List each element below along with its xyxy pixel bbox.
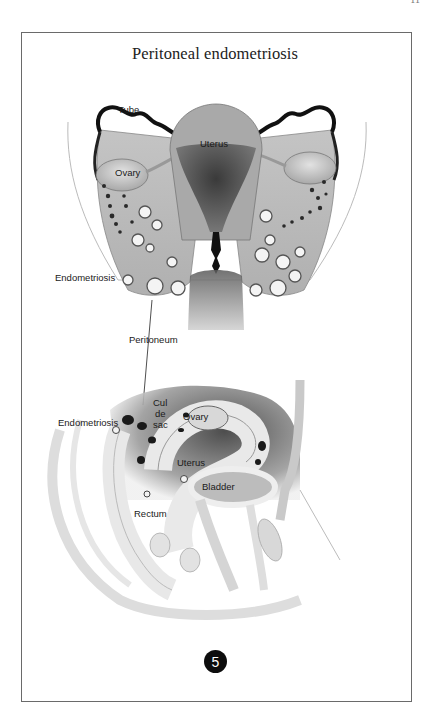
- label-uterus-upper: Uterus: [200, 139, 228, 149]
- label-rectum: Rectum: [134, 509, 167, 519]
- label-de: de: [155, 409, 166, 419]
- label-bladder: Bladder: [202, 482, 235, 492]
- label-endometriosis-upper: Endometriosis: [55, 273, 115, 283]
- peritoneum-leader-line: [143, 300, 152, 405]
- anatomy-illustration: [0, 0, 430, 727]
- label-peritoneum: Peritoneum: [129, 335, 178, 345]
- label-ovary-lower: Ovary: [183, 412, 208, 422]
- figure-number-badge: 5: [204, 650, 227, 673]
- label-cul: Cul: [153, 398, 167, 408]
- label-endometriosis-lower: Endometriosis: [58, 418, 118, 428]
- label-tube: Tube: [118, 105, 139, 115]
- label-sac: sac: [153, 420, 168, 430]
- label-uterus-lower: Uterus: [177, 458, 205, 468]
- label-ovary-upper: Ovary: [115, 168, 140, 178]
